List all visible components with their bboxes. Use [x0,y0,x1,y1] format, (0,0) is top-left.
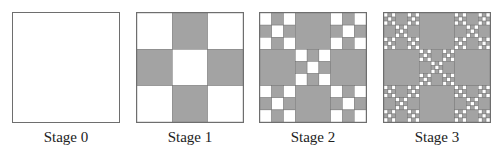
stage-1-square [136,12,244,123]
stage-2-label: Stage 2 [259,129,367,146]
stage-2-square [259,12,367,123]
stage-3-label: Stage 3 [383,129,491,146]
stage-0-pattern [13,13,119,122]
stage-1: Stage 1 [136,12,244,123]
stage-2: Stage 2 [259,12,367,123]
stage-3: Stage 3 [383,12,491,123]
stage-1-label: Stage 1 [136,129,244,146]
stage-0-label: Stage 0 [12,129,120,146]
stage-0: Stage 0 [12,12,120,123]
stage-3-square [383,12,491,123]
stage-0-square [12,12,120,123]
stage-1-pattern [137,13,243,122]
stage-3-pattern [384,13,490,122]
stage-2-pattern [260,13,366,122]
